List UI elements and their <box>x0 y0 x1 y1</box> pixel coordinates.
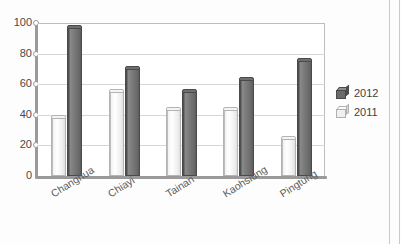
bar-body <box>297 61 312 176</box>
legend-swatch-side <box>346 103 349 114</box>
bar-body <box>182 92 197 176</box>
legend-swatch-face <box>336 90 346 99</box>
chart-legend: 20122011 <box>336 83 392 121</box>
legend-label: 2012 <box>354 87 378 99</box>
y-axis-tick-label: 0 <box>0 170 32 181</box>
bar-changhua-2012 <box>67 28 82 176</box>
page-border-line-outer <box>399 0 400 244</box>
bar-pingtung-2011 <box>281 139 296 176</box>
bar-chiayi-2012 <box>125 69 140 176</box>
y-axis-tick-label: 40 <box>0 109 32 120</box>
y-axis-tick-label: 60 <box>0 78 32 89</box>
bar-kaohsiung-2011 <box>223 110 238 176</box>
bar-kaohsiung-2012 <box>239 80 254 176</box>
bar-body <box>223 110 238 176</box>
bar-changhua-2011 <box>51 118 66 176</box>
y-axis-tick-label: 80 <box>0 48 32 59</box>
bar-tainan-2011 <box>166 110 181 176</box>
bar-body <box>109 92 124 176</box>
bar-body <box>51 118 66 176</box>
legend-swatch-face <box>336 109 346 118</box>
legend-label: 2011 <box>354 106 378 118</box>
bar-body <box>239 80 254 176</box>
legend-swatch-icon <box>336 87 349 99</box>
legend-swatch-side <box>346 84 349 95</box>
bar-chiayi-2011 <box>109 92 124 176</box>
y-axis-tick-label: 20 <box>0 139 32 150</box>
y-axis-tick-label: 100 <box>0 17 32 28</box>
bar-tainan-2012 <box>182 92 197 176</box>
page-border-line <box>389 0 390 244</box>
bar-body <box>125 69 140 176</box>
legend-swatch-icon <box>336 106 349 118</box>
plot-area <box>38 23 325 176</box>
bar-body <box>281 139 296 176</box>
legend-item-2011[interactable]: 2011 <box>336 102 392 121</box>
legend-item-2012[interactable]: 2012 <box>336 83 392 102</box>
bar-body <box>67 28 82 176</box>
bar-pingtung-2012 <box>297 61 312 176</box>
bar-chart-figure: 020406080100 ChanghuaChiayiTainanKaohsiu… <box>0 0 401 244</box>
bar-body <box>166 110 181 176</box>
